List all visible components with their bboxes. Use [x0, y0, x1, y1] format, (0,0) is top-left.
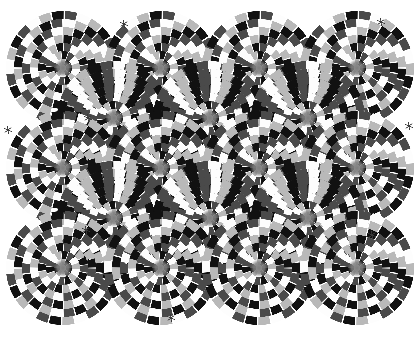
illusion-stage: [0, 0, 419, 338]
rotating-snakes-illusion-canvas: [0, 0, 419, 338]
